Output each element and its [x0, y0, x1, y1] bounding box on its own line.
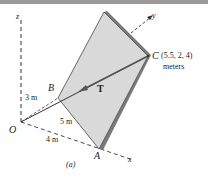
point-C-coords: (5.5, 2, 4) [161, 52, 192, 60]
figure-caption: (a) [66, 161, 75, 169]
y-axis-label: y [152, 12, 156, 20]
z-axis-label: z [16, 13, 19, 21]
diagram-canvas [0, 0, 208, 179]
x-axis [21, 122, 133, 160]
point-C-units: meters [163, 63, 184, 71]
point-A-label: A [94, 151, 100, 161]
panel-face [58, 12, 148, 149]
dim-AB-label: 5 m [60, 118, 72, 126]
point-B-label: B [48, 83, 54, 93]
dim-OA-label: 4 m [46, 136, 58, 144]
x-axis-label: x [128, 156, 132, 164]
point-O-label: O [9, 125, 16, 135]
point-C-label: C [152, 51, 159, 61]
point-C-marker [147, 55, 149, 57]
dim-OB-label: 3 m [25, 94, 37, 102]
force-T-label: T [97, 84, 104, 94]
y-axis [131, 17, 151, 33]
